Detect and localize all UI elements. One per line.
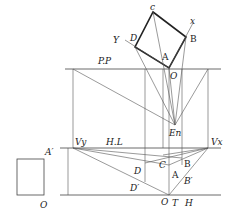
label-x: x [190,16,195,26]
label-d-top: D [129,33,137,43]
label-hl: H.L [105,137,123,147]
label-a-top: A [161,52,169,62]
label-o-left: O [40,200,48,210]
sight-c [153,12,175,125]
label-pp: P.P [97,56,112,66]
label-a-prime: A′ [44,147,54,157]
label-en: En [168,128,182,138]
en-to-vx-line [175,69,208,125]
vy-to-o [73,148,169,195]
label-o-bottom: O [161,197,169,207]
label-b-low: B [184,159,191,169]
label-a-low: A [171,170,179,180]
sight-b [175,37,186,125]
label-b-prime: B′ [183,176,193,186]
vy-to-b [73,148,182,158]
label-vy: Vy [75,137,87,147]
label-t: T [172,198,179,208]
plan-square [135,12,186,68]
vx-to-c [163,148,208,155]
label-vx: Vx [211,137,223,147]
label-h: H [184,198,193,208]
label-d-low: D [133,166,141,176]
en-to-vy-line [73,69,175,125]
x-axis-line [169,23,193,68]
label-c: c [150,2,155,12]
label-c-low: C [159,160,166,170]
label-d-prime: D′ [129,183,139,193]
label-o-top: O [170,71,178,81]
label-y: Y [113,35,120,45]
vy-to-a [73,148,169,165]
label-b-top: B [190,34,197,44]
elevation-square [17,159,44,195]
perspective-diagram: c x D Y B A O P.P En Vy H.L Vx A′ O C D … [0,0,233,223]
